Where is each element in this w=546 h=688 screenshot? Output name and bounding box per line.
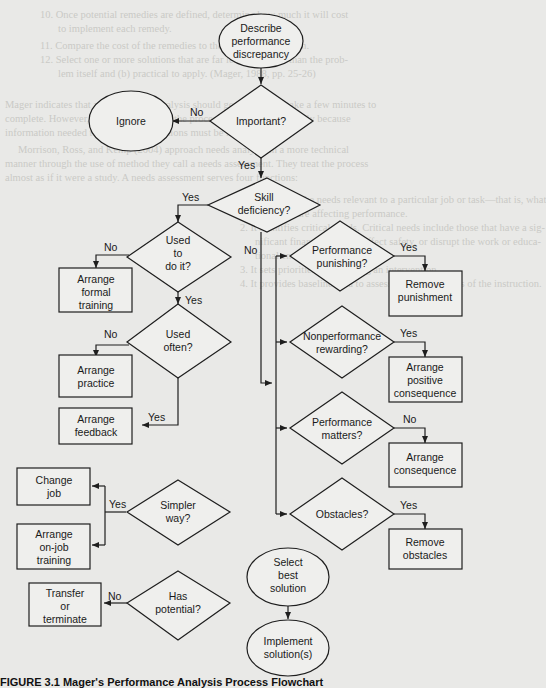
svg-text:often?: often? — [163, 341, 192, 353]
edge-label: Yes — [400, 499, 417, 511]
svg-text:Arrange: Arrange — [77, 364, 115, 376]
svg-text:potential?: potential? — [155, 603, 201, 615]
svg-text:to: to — [174, 247, 183, 259]
svg-text:Implement: Implement — [263, 635, 312, 647]
decision-obstacles: Obstacles? — [290, 478, 394, 550]
svg-text:Transfer: Transfer — [46, 587, 85, 599]
edge-label: No — [104, 328, 118, 340]
node-implement-solutions: Implement solution(s) — [247, 620, 329, 676]
svg-text:best: best — [278, 569, 298, 581]
edge-label: Yes — [148, 411, 165, 423]
svg-text:feedback: feedback — [75, 426, 118, 438]
decision-nonperformance-rewarding: Nonperformance rewarding? — [290, 306, 394, 378]
action-change-job: Change job — [17, 468, 90, 505]
svg-text:terminate: terminate — [43, 613, 87, 625]
node-describe-discrepancy: Describe performance discrepancy — [219, 14, 303, 68]
svg-text:deficiency?: deficiency? — [238, 204, 291, 216]
svg-text:Ignore: Ignore — [116, 115, 146, 127]
edge-label: No — [244, 244, 258, 256]
svg-text:punishment: punishment — [398, 291, 452, 303]
node-select-best-solution: Select best solution — [247, 548, 329, 606]
svg-text:training: training — [79, 299, 114, 311]
svg-text:Remove: Remove — [405, 536, 444, 548]
action-remove-obstacles: Remove obstacles — [389, 529, 462, 569]
svg-text:solution(s): solution(s) — [264, 648, 312, 660]
svg-text:consequence: consequence — [394, 464, 457, 476]
svg-text:Used: Used — [166, 328, 191, 340]
node-ignore: Ignore — [89, 91, 173, 151]
svg-text:do it?: do it? — [165, 260, 191, 272]
svg-text:Change: Change — [36, 474, 73, 486]
svg-text:Important?: Important? — [236, 115, 286, 127]
svg-text:discrepancy: discrepancy — [233, 48, 290, 60]
svg-text:obstacles: obstacles — [403, 549, 447, 561]
svg-text:positive: positive — [407, 374, 443, 386]
decision-simpler-way: Simpler way? — [127, 480, 230, 545]
edge-label: Yes — [400, 327, 417, 339]
action-feedback: Arrange feedback — [59, 408, 132, 444]
svg-text:formal: formal — [81, 286, 110, 298]
edge-label: Yes — [238, 159, 255, 171]
svg-text:Obstacles?: Obstacles? — [316, 508, 369, 520]
svg-text:Simpler: Simpler — [160, 499, 196, 511]
svg-text:Has: Has — [169, 590, 188, 602]
edge-label: Yes — [400, 241, 417, 253]
edge-label: Yes — [182, 191, 199, 203]
svg-text:or: or — [60, 600, 70, 612]
svg-text:Select: Select — [273, 556, 302, 568]
svg-text:Performance: Performance — [312, 244, 372, 256]
svg-text:Arrange: Arrange — [406, 451, 444, 463]
svg-text:performance: performance — [232, 35, 291, 47]
action-positive-consequence: Arrange positive consequence — [389, 357, 462, 402]
svg-text:training: training — [37, 554, 72, 566]
svg-text:Nonperformance: Nonperformance — [303, 330, 381, 342]
svg-text:Used: Used — [166, 234, 191, 246]
action-practice: Arrange practice — [59, 355, 132, 397]
svg-text:way?: way? — [165, 512, 191, 524]
decision-important: Important? — [210, 85, 313, 158]
svg-text:Arrange: Arrange — [77, 273, 115, 285]
svg-text:on-job: on-job — [39, 541, 68, 553]
edge-label: Yes — [185, 294, 202, 306]
decision-used-often: Used often? — [127, 304, 231, 378]
svg-text:Arrange: Arrange — [35, 528, 73, 540]
svg-text:matters?: matters? — [322, 429, 363, 441]
decision-performance-punishing: Performance punishing? — [290, 221, 394, 291]
action-onjob-training: Arrange on-job training — [17, 524, 90, 569]
decision-used-to-do-it: Used to do it? — [127, 222, 231, 292]
edge-label: No — [403, 413, 417, 425]
action-transfer-terminate: Transfer or terminate — [29, 583, 101, 626]
svg-text:practice: practice — [78, 377, 115, 389]
edge-label: No — [104, 241, 118, 253]
svg-text:Describe: Describe — [240, 22, 282, 34]
action-formal-training: Arrange formal training — [59, 268, 132, 312]
action-arrange-consequence: Arrange consequence — [389, 443, 462, 487]
edge-label: No — [108, 590, 122, 602]
figure-caption: FIGURE 3.1 Mager's Performance Analysis … — [0, 676, 323, 688]
decision-performance-matters: Performance matters? — [290, 392, 394, 464]
edge-label: No — [190, 106, 204, 118]
svg-text:Skill: Skill — [254, 191, 273, 203]
action-remove-punishment: Remove punishment — [389, 271, 462, 316]
svg-text:Arrange: Arrange — [77, 413, 115, 425]
edge-label: Yes — [109, 498, 126, 510]
svg-text:rewarding?: rewarding? — [316, 343, 368, 355]
svg-text:punishing?: punishing? — [317, 257, 368, 269]
decision-skill-deficiency: Skill deficiency? — [208, 178, 320, 232]
svg-text:consequence: consequence — [394, 387, 457, 399]
svg-text:Performance: Performance — [312, 416, 372, 428]
svg-text:job: job — [46, 487, 61, 499]
decision-has-potential: Has potential? — [127, 571, 230, 640]
svg-text:Remove: Remove — [405, 278, 444, 290]
svg-text:solution: solution — [270, 582, 306, 594]
svg-text:Arrange: Arrange — [406, 361, 444, 373]
